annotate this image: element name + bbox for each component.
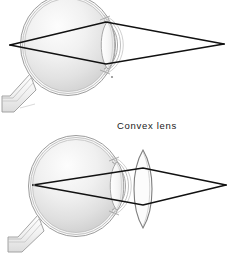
eye-optics-diagram: Convex lens [0,0,232,253]
crystalline-lens-top [101,21,115,69]
retina-marker-top [111,76,113,78]
retina-marker-bottom [33,184,35,186]
crystalline-lens-bottom [110,162,124,210]
convex-lens-label: Convex lens [117,120,177,131]
diagram-canvas: Convex lens [0,0,232,253]
